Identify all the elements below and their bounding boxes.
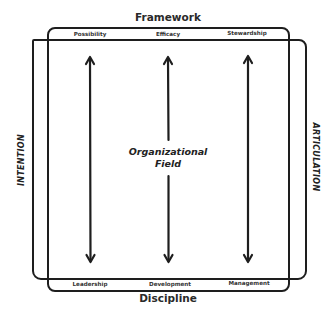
bottom-item-development: Development (135, 281, 205, 287)
bottom-item-leadership: Leadership (55, 281, 125, 287)
double-arrow-icon (244, 56, 252, 262)
intention-label: INTENTION (17, 134, 26, 186)
top-item-stewardship: Stewardship (212, 30, 282, 36)
center-label-line1: Organizational (118, 146, 218, 158)
top-item-possibility: Possibility (55, 31, 125, 37)
double-arrow-icon (86, 57, 95, 262)
organizational-field-label: Organizational Field (118, 146, 218, 170)
top-item-efficacy: Efficacy (133, 31, 203, 37)
articulation-label: ARTICULATION (311, 123, 320, 192)
discipline-title: Discipline (118, 292, 218, 304)
center-label-line2: Field (118, 158, 218, 170)
framework-title: Framework (118, 11, 218, 23)
bottom-item-management: Management (214, 280, 284, 286)
